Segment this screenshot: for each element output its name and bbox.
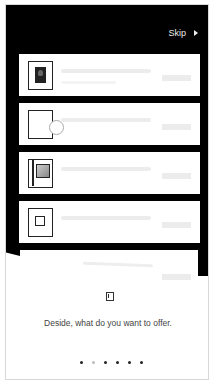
page-dot-1[interactable] xyxy=(80,361,83,364)
title-placeholder xyxy=(61,69,151,73)
skip-label: Skip xyxy=(168,28,186,38)
subtitle-placeholder xyxy=(61,81,116,84)
title-placeholder xyxy=(61,118,151,122)
price-placeholder xyxy=(162,173,191,179)
page-dot-3[interactable] xyxy=(104,361,107,364)
page-indicator xyxy=(80,361,143,364)
title-placeholder xyxy=(83,262,153,267)
tap-indicator-icon xyxy=(49,120,64,135)
page-dot-5[interactable] xyxy=(128,361,131,364)
price-placeholder xyxy=(162,222,191,228)
offer-card-ghost xyxy=(19,257,200,285)
nested-square-thumbnail xyxy=(28,208,53,237)
framed-print-thumbnail xyxy=(28,159,53,188)
title-placeholder xyxy=(61,167,151,171)
play-triangle-icon xyxy=(194,30,198,36)
onboarding-message: Deside, what do you want to offer. xyxy=(6,318,209,328)
page-dot-4[interactable] xyxy=(116,361,119,364)
offer-card-1[interactable] xyxy=(19,54,200,96)
page-dot-2-active[interactable] xyxy=(92,361,95,364)
frame-icon xyxy=(106,292,114,301)
offer-card-2[interactable] xyxy=(19,103,200,145)
page-dot-6[interactable] xyxy=(140,361,143,364)
price-placeholder xyxy=(162,75,191,81)
offer-card-3[interactable] xyxy=(19,152,200,194)
onboarding-screen: Skip D xyxy=(5,4,209,380)
offer-card-4[interactable] xyxy=(19,201,200,243)
portrait-photo-thumbnail xyxy=(28,61,53,90)
price-placeholder xyxy=(162,124,191,130)
price-placeholder xyxy=(162,274,191,280)
dark-backdrop-tail xyxy=(6,250,20,256)
title-placeholder xyxy=(61,216,151,220)
skip-button[interactable]: Skip xyxy=(168,28,198,38)
